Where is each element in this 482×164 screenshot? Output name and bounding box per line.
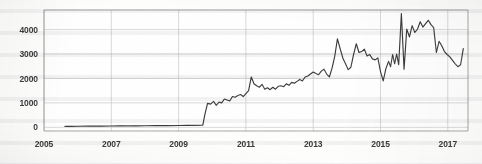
x-axis-tick-label: 2005 xyxy=(35,139,54,149)
plot-background xyxy=(44,10,468,131)
x-axis-tick-label: 2011 xyxy=(237,139,255,149)
x-axis-tick-labels: 2005200720092011201320152017 xyxy=(35,139,458,149)
x-axis-tick-label: 2007 xyxy=(102,139,121,149)
y-axis-tick-labels: 01000200030004000 xyxy=(19,25,38,133)
x-axis-tick-label: 2009 xyxy=(169,139,188,149)
line-chart: 01000200030004000 2005200720092011201320… xyxy=(0,0,482,164)
chart-screenshot: 01000200030004000 2005200720092011201320… xyxy=(0,0,482,164)
x-axis-tick-label: 2017 xyxy=(439,139,458,149)
y-axis-tick-label: 1000 xyxy=(19,98,38,108)
y-axis-tick-label: 3000 xyxy=(19,49,38,59)
x-axis-tick-label: 2013 xyxy=(304,139,323,149)
y-axis-tick-label: 0 xyxy=(33,122,38,132)
y-axis-tick-label: 4000 xyxy=(19,25,38,35)
y-axis-tick-label: 2000 xyxy=(19,74,38,84)
x-axis-tick-label: 2015 xyxy=(371,139,390,149)
